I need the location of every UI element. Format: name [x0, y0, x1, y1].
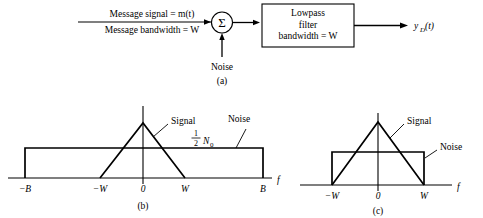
plot-b-signal-leader-line	[153, 124, 168, 137]
plot-c-axis-label-f: f	[457, 182, 461, 192]
plot-b-tick-zero: 0	[141, 184, 146, 194]
filter-label-line2: filter	[299, 20, 318, 30]
plot-b-tick-minus-w: −W	[93, 184, 108, 194]
plot-b-noise-level-subscript: 0	[210, 141, 214, 149]
figure-container: Message signal = m(t) Message bandwidth …	[0, 0, 483, 218]
sigma-icon: Σ	[218, 15, 226, 30]
plot-c-signal-leader-line	[390, 124, 404, 138]
plot-b-noise-level-symbol: N	[202, 136, 210, 146]
plot-b-noise-level-label: 1 2 N 0	[192, 129, 215, 149]
plot-b-noise-level-numerator: 1	[194, 129, 198, 138]
plot-b-noise-spectrum	[25, 148, 263, 178]
plot-c-tick-w: W	[420, 191, 429, 201]
caption-a: (a)	[217, 76, 228, 87]
plot-b-noise-leader-line	[236, 129, 246, 148]
plot-b-signal-label: Signal	[171, 116, 196, 126]
noise-input-label: Noise	[211, 62, 233, 72]
plot-b: Signal Noise 1 2 N 0 −B −W 0 W B f (b)	[8, 106, 281, 212]
filter-label-line1: Lowpass	[291, 8, 325, 18]
plot-b-tick-b: B	[260, 184, 266, 194]
plot-b-tick-minus-b: −B	[19, 184, 31, 194]
plot-c-noise-leader-line	[425, 150, 437, 158]
block-diagram: Message signal = m(t) Message bandwidth …	[78, 4, 434, 87]
filter-label-line3: bandwidth = W	[278, 31, 337, 41]
figure-svg: Message signal = m(t) Message bandwidth …	[0, 0, 483, 218]
plot-b-noise-level-denominator: 2	[194, 139, 198, 148]
plot-c-tick-minus-w: −W	[325, 191, 340, 201]
plot-c-signal-label: Signal	[407, 116, 432, 126]
message-signal-label: Message signal = m(t)	[110, 9, 195, 20]
input-arrowhead-icon	[204, 19, 211, 24]
plot-b-noise-label: Noise	[228, 114, 250, 124]
plot-c: Signal Noise −W 0 W f (c)	[300, 113, 462, 217]
plot-c-noise-label: Noise	[440, 142, 462, 152]
output-arrowhead-icon	[400, 22, 408, 28]
plot-c-tick-zero: 0	[376, 191, 381, 201]
caption-b: (b)	[137, 201, 148, 212]
filter-input-arrowhead-icon	[253, 20, 260, 25]
caption-c: (c)	[373, 206, 384, 217]
plot-b-axis-label-f: f	[277, 175, 281, 185]
message-bandwidth-label: Message bandwidth = W	[105, 25, 200, 35]
output-signal-label: y D (t)	[413, 21, 434, 34]
plot-b-tick-w: W	[181, 184, 190, 194]
noise-arrowhead-icon	[219, 33, 224, 40]
output-label-suffix: (t)	[425, 21, 434, 32]
output-label-base: y	[413, 21, 419, 31]
